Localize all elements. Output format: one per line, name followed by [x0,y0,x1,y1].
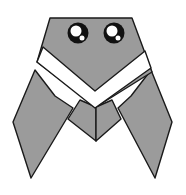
right-eye [104,23,125,44]
cicada-svg [0,0,186,195]
left-wing [13,70,73,178]
cicada-illustration: origami cicada illustration [0,0,186,195]
abdomen-right [96,100,121,141]
left-eye [68,23,89,44]
